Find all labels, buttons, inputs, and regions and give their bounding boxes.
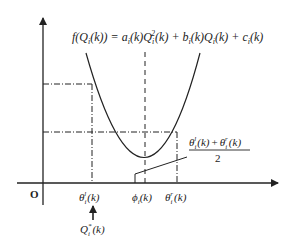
quadratic-cost-diagram: f(Qi(k)) = ai(k)Qi2(k) + bi(k)Qi(k) + ci… bbox=[0, 0, 292, 247]
midpoint-fraction: θil(k)+θir(k) 2 bbox=[189, 135, 250, 164]
midpoint-denominator: 2 bbox=[215, 152, 221, 164]
midpoint-leader bbox=[135, 157, 187, 183]
theta-r-label: θir(k) bbox=[165, 190, 187, 206]
phi-label: ϕi(k) bbox=[132, 191, 152, 206]
optimum-q-label: Qi*(k) bbox=[80, 222, 105, 238]
midpoint-numerator: θil(k)+θir(k) bbox=[189, 135, 241, 151]
cost-function-equation: f(Qi(k)) = ai(k)Qi2(k) + bi(k)Qi(k) + ci… bbox=[72, 29, 263, 46]
theta-l-label: θil(k) bbox=[79, 190, 100, 206]
parabola-curve bbox=[86, 53, 200, 158]
origin-label: O bbox=[30, 188, 39, 200]
